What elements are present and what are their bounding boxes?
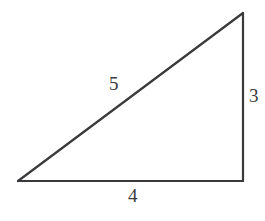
side-label-vertical-leg: 3 [249, 86, 259, 105]
triangle-figure: 5 3 4 [0, 0, 265, 221]
side-label-hypotenuse: 5 [109, 74, 119, 93]
triangle-side-hypotenuse [18, 13, 243, 181]
side-label-horizontal-leg: 4 [128, 186, 138, 205]
